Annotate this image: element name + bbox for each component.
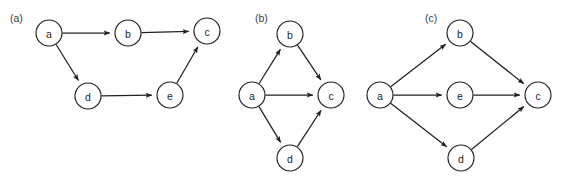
node-b[interactable]: b [447, 20, 473, 46]
node-c[interactable]: c [194, 18, 220, 44]
node-label-e: e [167, 90, 173, 102]
node-label-b: b [457, 28, 463, 40]
node-label-c: c [204, 26, 209, 38]
node-d[interactable]: d [277, 145, 303, 171]
node-label-a: a [249, 90, 255, 102]
node-label-c: c [535, 90, 540, 102]
graph-figure-svg: abcde(a)abcd(b)abecd(c) [0, 0, 561, 178]
node-label-d: d [85, 91, 91, 103]
edge-d-to-e [102, 95, 152, 96]
node-label-e: e [457, 90, 463, 102]
node-b[interactable]: b [115, 20, 141, 46]
node-a[interactable]: a [36, 20, 62, 46]
node-label-b: b [125, 28, 131, 40]
node-label-d: d [287, 153, 293, 165]
panel-a-caption: (a) [10, 12, 23, 24]
node-a[interactable]: a [367, 82, 393, 108]
node-c[interactable]: c [525, 82, 551, 108]
panel-b-caption: (b) [255, 12, 268, 24]
node-a[interactable]: a [239, 82, 265, 108]
figure-root: abcde(a)abcd(b)abecd(c) [0, 0, 561, 178]
node-label-a: a [46, 28, 52, 40]
node-label-c: c [328, 90, 333, 102]
node-d[interactable]: d [75, 83, 101, 109]
node-label-a: a [377, 90, 383, 102]
node-label-b: b [287, 29, 293, 41]
node-c[interactable]: c [318, 82, 344, 108]
node-label-d: d [458, 153, 464, 165]
node-b[interactable]: b [277, 21, 303, 47]
node-d[interactable]: d [448, 145, 474, 171]
panel-c-caption: (c) [425, 12, 437, 24]
node-e[interactable]: e [447, 82, 473, 108]
node-e[interactable]: e [157, 82, 183, 108]
